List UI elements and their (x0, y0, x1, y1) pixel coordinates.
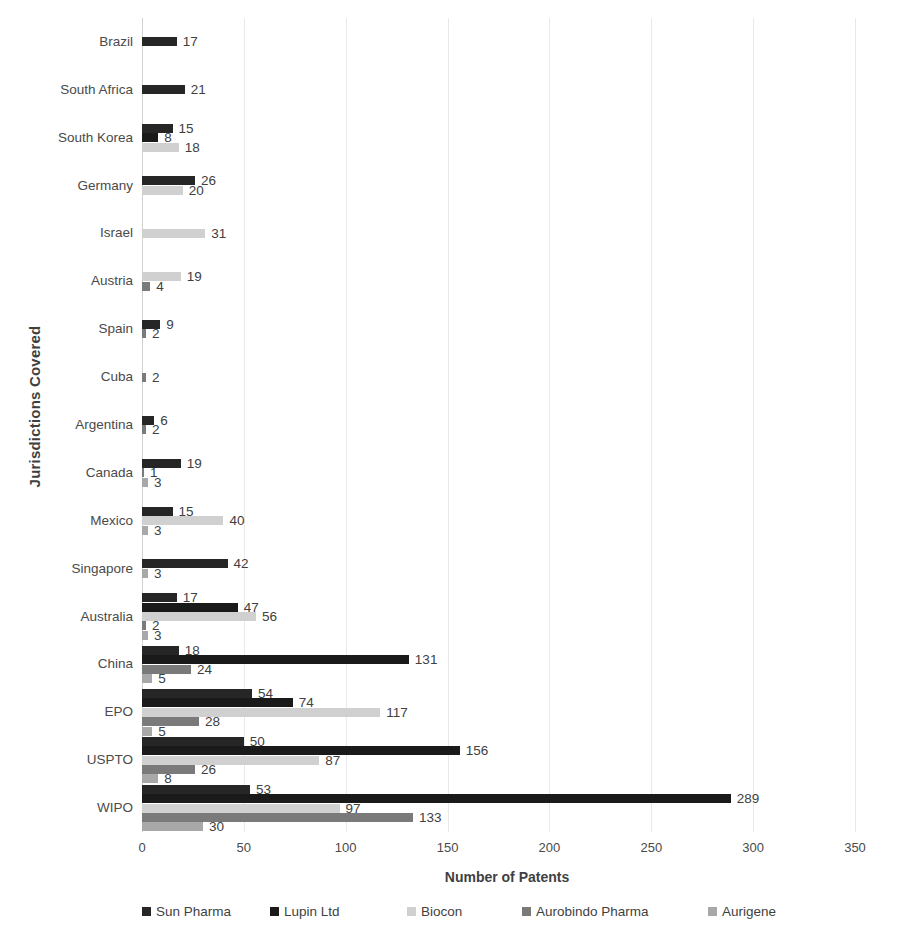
legend-swatch-icon (270, 907, 279, 916)
legend-label: Biocon (421, 904, 462, 919)
chart-legend: Sun PharmaLupin LtdBioconAurobindo Pharm… (142, 899, 882, 923)
bar-value-label: 131 (415, 653, 438, 667)
bar-value-label: 4 (156, 280, 164, 294)
x-tick-label-350: 350 (844, 840, 866, 855)
x-tick-label-300: 300 (742, 840, 764, 855)
bar-value-label: 26 (201, 763, 216, 777)
legend-swatch-icon (708, 907, 717, 916)
bar-lupin-ltd (142, 603, 238, 612)
legend-item-aurigene[interactable]: Aurigene (708, 904, 776, 919)
bar-aurigene (142, 822, 203, 831)
bar-value-label: 31 (211, 227, 226, 241)
bar-biocon (142, 756, 319, 765)
bar-value-label: 18 (185, 141, 200, 155)
bar-aurobindo-pharma (142, 282, 150, 291)
y-axis-category-label: Spain (98, 322, 133, 336)
x-tick-label-100: 100 (335, 840, 357, 855)
bar-value-label: 28 (205, 715, 220, 729)
bar-value-label: 9 (166, 318, 174, 332)
x-axis-title: Number of Patents (142, 869, 872, 885)
gridline-350 (855, 18, 856, 832)
legend-item-sun-pharma[interactable]: Sun Pharma (142, 904, 231, 919)
bar-lupin-ltd (142, 746, 460, 755)
legend-label: Sun Pharma (156, 904, 231, 919)
x-tick-label-0: 0 (138, 840, 145, 855)
bar-aurigene (142, 569, 148, 578)
bar-biocon (142, 804, 340, 813)
bar-value-label: 40 (229, 514, 244, 528)
chart-row: Canada1913 (142, 449, 855, 497)
bar-lupin-ltd (142, 794, 731, 803)
y-axis-category-label: Argentina (75, 418, 133, 432)
legend-label: Aurobindo Pharma (536, 904, 649, 919)
y-axis-title: Jurisdictions Covered (26, 297, 43, 517)
bar-value-label: 2 (152, 327, 160, 341)
x-tick-label-200: 200 (539, 840, 561, 855)
legend-item-lupin-ltd[interactable]: Lupin Ltd (270, 904, 340, 919)
bar-sun-pharma (142, 176, 195, 185)
legend-swatch-icon (407, 907, 416, 916)
bar-biocon (142, 143, 179, 152)
legend-label: Aurigene (722, 904, 776, 919)
y-axis-category-label: Israel (100, 226, 133, 240)
legend-swatch-icon (142, 907, 151, 916)
legend-swatch-icon (522, 907, 531, 916)
y-axis-category-label: South Korea (58, 131, 133, 145)
bar-aurigene (142, 727, 152, 736)
bar-sun-pharma (142, 37, 177, 46)
chart-row: Brazil17 (142, 18, 855, 66)
bar-value-label: 21 (191, 83, 206, 97)
bar-lupin-ltd (142, 133, 158, 142)
y-axis-category-label: China (98, 657, 133, 671)
chart-row: Spain92 (142, 305, 855, 353)
y-axis-category-label: South Africa (60, 83, 133, 97)
legend-label: Lupin Ltd (284, 904, 340, 919)
chart-row: Austria194 (142, 257, 855, 305)
bar-sun-pharma (142, 85, 185, 94)
bar-sun-pharma (142, 785, 250, 794)
chart-row: Mexico15403 (142, 497, 855, 545)
bar-sun-pharma (142, 689, 252, 698)
y-axis-category-label: Canada (86, 466, 133, 480)
bar-biocon (142, 708, 380, 717)
bar-value-label: 19 (187, 270, 202, 284)
bar-aurobindo-pharma (142, 329, 146, 338)
bar-sun-pharma (142, 507, 173, 516)
bar-aurobindo-pharma (142, 717, 199, 726)
bar-value-label: 3 (154, 567, 162, 581)
chart-row: South Korea15818 (142, 114, 855, 162)
chart-row: Australia17475623 (142, 593, 855, 641)
bar-value-label: 2 (152, 371, 160, 385)
bar-aurigene (142, 631, 148, 640)
bar-value-label: 15 (179, 122, 194, 136)
bar-aurobindo-pharma (142, 813, 413, 822)
bar-value-label: 156 (466, 744, 489, 758)
bar-sun-pharma (142, 593, 177, 602)
bar-value-label: 30 (209, 820, 224, 834)
bar-biocon (142, 229, 205, 238)
chart-row: USPTO5015687268 (142, 736, 855, 784)
bar-value-label: 117 (386, 706, 408, 720)
chart-row: South Africa21 (142, 66, 855, 114)
chart-row: China18131245 (142, 640, 855, 688)
chart-row: WIPO532899713330 (142, 784, 855, 832)
bar-lupin-ltd (142, 655, 409, 664)
bar-value-label: 289 (737, 792, 760, 806)
y-axis-category-label: Mexico (90, 514, 133, 528)
bar-value-label: 20 (189, 184, 204, 198)
bar-aurobindo-pharma (142, 373, 146, 382)
x-tick-label-250: 250 (640, 840, 662, 855)
bar-aurigene (142, 674, 152, 683)
chart-row: Singapore423 (142, 545, 855, 593)
bar-value-label: 87 (325, 754, 340, 768)
y-axis-category-label: Singapore (71, 562, 133, 576)
bar-value-label: 56 (262, 610, 277, 624)
bar-value-label: 3 (154, 476, 162, 490)
bar-value-label: 2 (152, 423, 160, 437)
y-axis-category-label: USPTO (87, 753, 133, 767)
x-tick-label-150: 150 (437, 840, 459, 855)
y-axis-category-label: WIPO (97, 801, 133, 815)
bar-sun-pharma (142, 459, 181, 468)
legend-item-biocon[interactable]: Biocon (407, 904, 462, 919)
legend-item-aurobindo-pharma[interactable]: Aurobindo Pharma (522, 904, 649, 919)
